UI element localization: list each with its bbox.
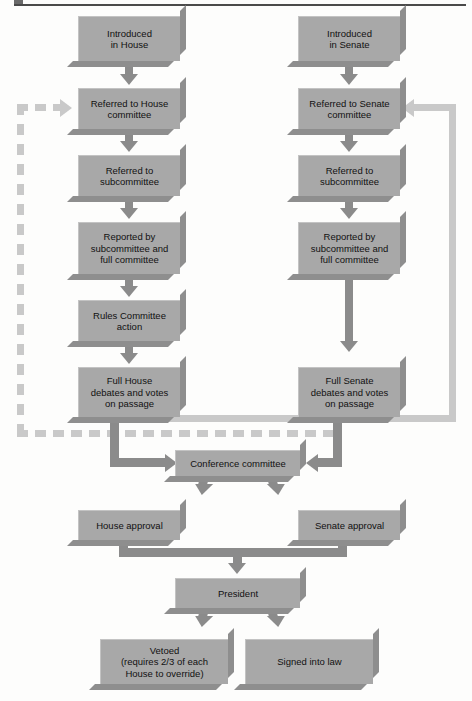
node-referred-to-senate-subcommittee[interactable]: Referred to subcommittee [298, 155, 400, 196]
node-introduced-in-senate[interactable]: Introduced in Senate [298, 16, 400, 61]
edge-senate-4-line [345, 274, 353, 343]
node-label: President [215, 588, 261, 600]
node-president[interactable]: President [175, 578, 300, 608]
node-vetoed[interactable]: Vetoed (requires 2/3 of each House to ov… [100, 639, 228, 684]
node-full-senate-debates[interactable]: Full Senate debates and votes on passage [298, 367, 400, 417]
node-label: Reported by subcommittee and full commit… [88, 231, 172, 266]
node-label: Introduced in Senate [324, 28, 375, 51]
top-rule-tick [14, 0, 23, 4]
edge-house-2-arrowhead [120, 141, 138, 152]
node-introduced-in-house[interactable]: Introduced in House [78, 16, 180, 61]
edge-senate-4-arrowhead [340, 341, 358, 352]
node-reported-by-senate-committee[interactable]: Reported by subcommittee and full commit… [298, 222, 400, 274]
house-feedback-arrowhead [60, 99, 72, 117]
house-feedback-dashed-vertical [17, 104, 24, 436]
node-label: House approval [93, 520, 166, 532]
edge-house-to-conference-horizontal [110, 458, 168, 467]
flowchart-diagram: Introduced in House Referred to House co… [0, 0, 472, 701]
edge-house-4-arrowhead [120, 286, 138, 297]
edge-merge-to-president-arrowhead [228, 563, 246, 574]
node-signed-into-law[interactable]: Signed into law [245, 639, 373, 684]
node-conference-committee[interactable]: Conference committee [175, 450, 300, 476]
house-feedback-dashed-top [17, 104, 62, 111]
node-label: Full House debates and votes on passage [88, 375, 172, 410]
node-label: Senate approval [312, 520, 387, 532]
edge-house-5-arrowhead [120, 353, 138, 364]
edge-senate-to-conference-arrowhead [306, 454, 318, 472]
edge-senate-1-arrowhead [340, 74, 358, 85]
node-label: Full Senate debates and votes on passage [308, 375, 392, 410]
edge-house-1-arrowhead [120, 74, 138, 85]
node-label: Conference committee [187, 458, 289, 470]
edge-conference-to-house-approval-arrowhead [193, 484, 213, 495]
node-label: Signed into law [274, 656, 344, 668]
node-label: Rules Committee action [90, 310, 169, 333]
node-label: Referred to subcommittee [97, 165, 162, 188]
edge-senate-to-conference-horizontal [318, 458, 342, 467]
node-rules-committee-action[interactable]: Rules Committee action [78, 300, 180, 341]
edge-senate-3-arrowhead [340, 208, 358, 219]
senate-feedback-vertical [449, 104, 456, 422]
node-reported-by-house-committee[interactable]: Reported by subcommittee and full commit… [78, 222, 180, 274]
node-full-house-debates[interactable]: Full House debates and votes on passage [78, 367, 180, 417]
node-referred-to-senate-committee[interactable]: Referred to Senate committee [298, 88, 400, 129]
house-feedback-dashed-bottom [17, 430, 337, 437]
node-label: Reported by subcommittee and full commit… [308, 231, 392, 266]
edge-president-to-signed-arrowhead [267, 616, 287, 627]
edge-president-to-vetoed-arrowhead [193, 616, 213, 627]
node-referred-to-house-committee[interactable]: Referred to House committee [78, 88, 180, 129]
node-label: Referred to Senate committee [306, 98, 392, 121]
node-referred-to-house-subcommittee[interactable]: Referred to subcommittee [78, 155, 180, 196]
node-label: Introduced in House [104, 28, 155, 51]
node-label: Referred to House committee [88, 98, 172, 121]
top-rule-divider [14, 4, 466, 6]
node-house-approval[interactable]: House approval [78, 510, 180, 540]
node-senate-approval[interactable]: Senate approval [298, 510, 400, 540]
senate-feedback-top-horizontal [414, 104, 456, 111]
edge-conference-to-senate-approval-arrowhead [267, 484, 287, 495]
edge-house-3-arrowhead [120, 208, 138, 219]
edge-senate-2-arrowhead [340, 141, 358, 152]
node-label: Vetoed (requires 2/3 of each House to ov… [118, 645, 211, 680]
node-label: Referred to subcommittee [317, 165, 382, 188]
